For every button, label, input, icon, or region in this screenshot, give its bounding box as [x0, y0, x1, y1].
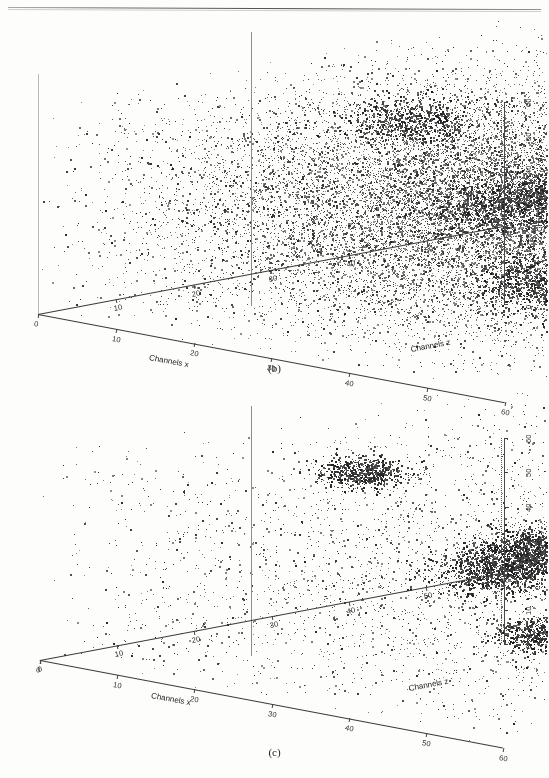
y-axis-vertical-line-c — [251, 406, 252, 656]
z-tick-label: 50 — [423, 590, 433, 600]
y-tick — [504, 541, 508, 542]
x-tick-label: 10 — [111, 334, 121, 344]
x-tick-label: 40 — [345, 378, 355, 388]
y-axis-minor-ticks-c — [501, 438, 502, 644]
y-axis-title-b: Channels y — [535, 192, 544, 232]
panel-caption-b: (b) — [0, 362, 549, 374]
y-tick-label: 50 — [524, 132, 533, 140]
y-tick — [504, 472, 508, 473]
z-tick-label: 20 — [191, 288, 201, 298]
scatter-panel-c: 0102030405060 0102030405060 Channels x C… — [0, 392, 549, 764]
x-tick-label: 30 — [267, 709, 277, 719]
y-tick — [504, 575, 508, 576]
y-tick-label: 50 — [524, 469, 533, 477]
y-tick-label: 60 — [524, 99, 533, 107]
y-tick-label: 20 — [524, 233, 533, 241]
z-tick-label: 30 — [269, 620, 279, 630]
y-axis-minor-ticks-b — [501, 102, 502, 304]
y-tick-label: 20 — [524, 572, 533, 580]
y-axis-title-c: Channels y — [535, 530, 544, 570]
x-tick-label: 20 — [189, 348, 199, 358]
y-tick — [504, 203, 508, 204]
y-tick-label: 10 — [524, 606, 533, 614]
y-tick-label: 0 — [524, 645, 533, 649]
y-tick-label: 60 — [524, 435, 533, 443]
panel-caption-c: (c) — [0, 746, 549, 758]
z-tick-label: 10 — [113, 303, 123, 313]
y-tick-label: 10 — [524, 267, 533, 275]
y-tick — [504, 438, 508, 439]
z-tick-label: 40 — [346, 259, 356, 269]
y-tick — [504, 270, 508, 271]
plot-area-b: 0102030405060 605040302010 Channels x Ch… — [0, 14, 549, 380]
scatter-points-c — [0, 392, 549, 764]
y-tick — [504, 169, 508, 170]
y-tick — [504, 507, 508, 508]
y-tick-label: 30 — [524, 200, 533, 208]
y-tick — [504, 136, 508, 137]
scatter-panel-b: 0102030405060 605040302010 Channels x Ch… — [0, 14, 549, 380]
x-tick-label: 10 — [113, 680, 123, 690]
y-tick-label: 40 — [524, 503, 533, 511]
y-tick — [504, 610, 508, 611]
z-tick-label: 40 — [346, 605, 356, 615]
y-tick — [504, 102, 508, 103]
x-tick — [427, 387, 429, 391]
y-tick-label: 40 — [524, 166, 533, 174]
z-tick — [193, 285, 195, 289]
y-tick-label: 30 — [524, 538, 533, 546]
scatter-points-b — [0, 14, 549, 380]
figure-page: 0102030405060 605040302010 Channels x Ch… — [0, 0, 549, 778]
y-tick — [504, 304, 508, 305]
box-left-edge-b — [38, 74, 39, 314]
y-tick — [504, 237, 508, 238]
z-tick-label: 50 — [424, 244, 434, 254]
y-axis-vertical-line-b — [251, 32, 252, 306]
plot-area-c: 0102030405060 0102030405060 Channels x C… — [0, 392, 549, 764]
y-tick-label: 0 — [524, 305, 533, 309]
x-tick — [271, 704, 273, 708]
x-tick-label: 40 — [344, 723, 354, 733]
y-tick — [504, 644, 508, 645]
